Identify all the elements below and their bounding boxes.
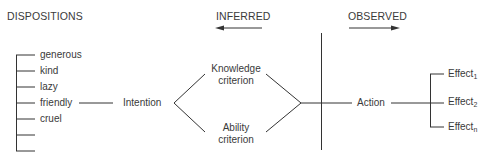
knowledge-line1: Knowledge — [208, 63, 264, 75]
disposition-friendly: friendly — [40, 97, 72, 109]
effect-n-sub: n — [473, 126, 477, 133]
disposition-kind: kind — [40, 65, 58, 77]
ability-line1: Ability — [208, 122, 264, 134]
effect-1-sub: 1 — [473, 73, 477, 80]
action-node: Action — [357, 97, 385, 109]
ability-criterion-node: Ability criterion — [208, 122, 264, 146]
knowledge-criterion-node: Knowledge criterion — [208, 63, 264, 87]
effect-2: Effect2 — [448, 96, 477, 111]
effect-2-base: Effect — [448, 96, 473, 107]
effect-1: Effect1 — [448, 68, 477, 83]
dispositions-header: DISPOSITIONS — [7, 10, 83, 22]
effect-2-sub: 2 — [473, 101, 477, 108]
observed-header: OBSERVED — [348, 10, 407, 22]
inferred-header: INFERRED — [216, 10, 270, 22]
knowledge-line2: criterion — [208, 75, 264, 87]
disposition-cruel: cruel — [40, 113, 62, 125]
effect-n-base: Effect — [448, 121, 473, 132]
ability-line2: criterion — [208, 134, 264, 146]
disposition-generous: generous — [40, 49, 82, 61]
effect-1-base: Effect — [448, 68, 473, 79]
disposition-lazy: lazy — [40, 81, 58, 93]
intention-node: Intention — [123, 97, 161, 109]
effect-n: Effectn — [448, 121, 477, 136]
